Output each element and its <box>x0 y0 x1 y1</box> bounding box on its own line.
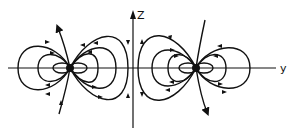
arrow <box>45 92 50 96</box>
arrow <box>165 88 170 92</box>
arrow <box>217 44 222 48</box>
left-source-point <box>66 64 74 72</box>
arrow <box>222 90 227 94</box>
field-line-diagram: Z y <box>0 0 292 130</box>
arrow <box>45 83 50 87</box>
arrow <box>169 80 174 84</box>
right-source-point <box>192 64 200 72</box>
arrow <box>140 92 144 97</box>
left-source-field-lines <box>18 28 130 114</box>
left-open-line-up <box>58 28 70 68</box>
z-axis-label: Z <box>137 9 145 22</box>
arrow <box>140 39 144 44</box>
arrow <box>80 43 85 47</box>
right-source-field-lines <box>138 20 250 112</box>
arrow <box>218 82 223 86</box>
arrow <box>45 40 50 44</box>
arrow <box>126 93 130 98</box>
y-axis-label: y <box>280 62 287 75</box>
arrow <box>126 40 130 45</box>
z-axis-arrowhead <box>130 10 136 19</box>
